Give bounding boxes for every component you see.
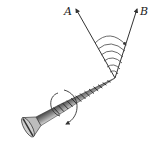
- screw: [19, 68, 120, 138]
- screw-shank: [36, 74, 118, 126]
- angle-arc: [104, 58, 122, 63]
- angle-arcs: [95, 36, 126, 74]
- angle-arc: [101, 51, 123, 57]
- angle-arc: [98, 44, 125, 51]
- screw-angle-diagram: A B: [0, 0, 153, 152]
- vector-a-label: A: [63, 5, 72, 18]
- vector-a-line: [76, 9, 115, 78]
- vector-b-label: B: [139, 5, 148, 18]
